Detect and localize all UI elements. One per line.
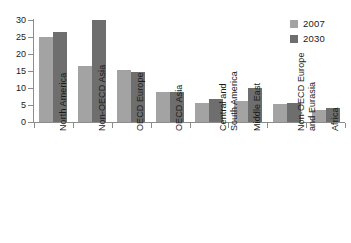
legend-item: 2030 (290, 32, 325, 45)
category-label: Africa (330, 107, 341, 131)
category-label-line: South America (229, 71, 240, 131)
y-tick-label: 5 (0, 101, 26, 110)
category-label: Central andSouth America (218, 71, 239, 131)
legend-item: 2007 (290, 17, 325, 30)
y-tick-label: 10 (0, 84, 26, 93)
y-tick-mark (28, 37, 33, 38)
bar-2007 (156, 92, 170, 122)
category-label-line: Non-OECD Asia (97, 65, 108, 131)
category-label-line: Africa (330, 107, 341, 131)
category-label-line: OECD Europe (135, 72, 146, 131)
legend-swatch (290, 20, 298, 28)
x-tick-mark (34, 123, 35, 128)
y-tick-mark (28, 105, 33, 106)
y-tick-mark (28, 71, 33, 72)
x-tick-mark (190, 123, 191, 128)
category-label-line: Central and (218, 71, 229, 131)
bar-2007 (39, 37, 53, 122)
category-label: Non-OECD Europeand Eurasia (296, 52, 317, 131)
bar-2007 (78, 66, 92, 122)
category-label-line: North America (58, 73, 69, 131)
category-label-line: and Eurasia (307, 52, 318, 131)
category-label-line: OECD Asia (174, 85, 185, 131)
bar-2007 (117, 70, 131, 122)
x-tick-mark (267, 123, 268, 128)
bar-2007 (195, 103, 209, 122)
category-label: OECD Europe (135, 72, 146, 131)
legend-label: 2030 (303, 34, 325, 44)
category-label: OECD Asia (174, 85, 185, 131)
y-tick-mark (28, 54, 33, 55)
y-tick-mark (28, 88, 33, 89)
legend-swatch (290, 35, 298, 43)
y-tick-label: 15 (0, 67, 26, 76)
x-tick-mark (151, 123, 152, 128)
chart-legend: 20072030 (290, 17, 325, 47)
y-tick-label: 20 (0, 50, 26, 59)
x-tick-mark (73, 123, 74, 128)
x-tick-mark (112, 123, 113, 128)
bar-chart: 051015202530 North AmericaNon-OECD AsiaO… (0, 0, 351, 243)
category-label: North America (58, 73, 69, 131)
y-tick-label: 30 (0, 16, 26, 25)
y-tick-label: 25 (0, 33, 26, 42)
legend-label: 2007 (303, 19, 325, 29)
y-tick-mark (28, 20, 33, 21)
x-tick-mark (345, 123, 346, 128)
category-label: Middle East (252, 83, 263, 131)
y-tick-label: 0 (0, 118, 26, 127)
category-label: Non-OECD Asia (97, 65, 108, 131)
category-label-line: Non-OECD Europe (296, 52, 307, 131)
bar-2007 (273, 104, 287, 122)
category-label-line: Middle East (252, 83, 263, 131)
